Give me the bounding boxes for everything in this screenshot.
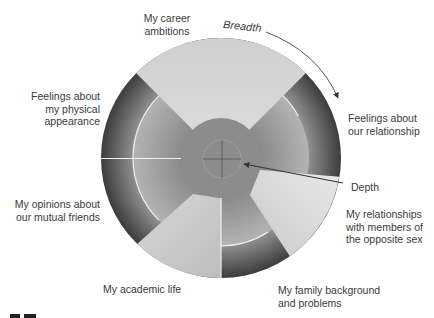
- core: [181, 118, 261, 198]
- topic-label-friends: My opinions about our mutual friends: [4, 198, 100, 223]
- topic-label-family: My family background and problems: [278, 284, 380, 309]
- depth-label: Depth: [351, 181, 379, 194]
- center-target: [203, 140, 241, 178]
- topic-label-career: My career ambitions: [128, 12, 206, 37]
- topic-label-academic: My academic life: [103, 283, 181, 296]
- topic-label-appearance: Feelings about my physical appearance: [4, 90, 100, 128]
- topic-label-relationship: Feelings about our relationship: [348, 112, 420, 137]
- penetration-diagram: [0, 0, 434, 318]
- figure-marker: [10, 306, 40, 318]
- topic-label-opposite-sex: My relationships with members of the opp…: [346, 208, 423, 246]
